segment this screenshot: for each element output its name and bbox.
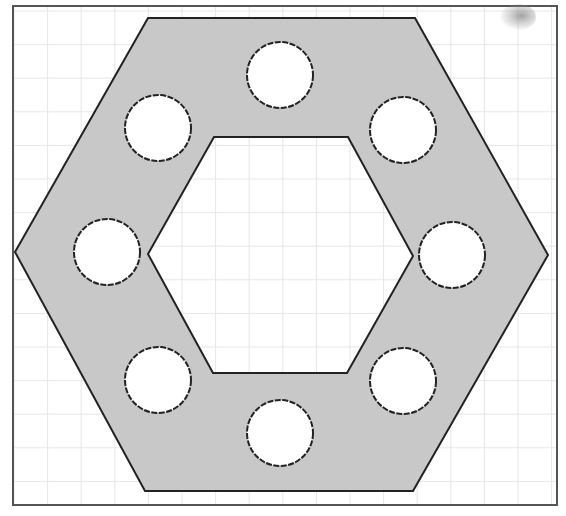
hexagon-plate-diagram [0, 0, 566, 516]
hole-upper-left [125, 95, 191, 161]
hole-lower-right [370, 348, 436, 414]
hole-upper-right [370, 97, 436, 163]
circular-holes [74, 42, 485, 466]
corner-watermark-smudge [500, 4, 536, 30]
hole-bottom [247, 400, 313, 466]
hole-top [247, 42, 313, 108]
hole-right [419, 222, 485, 288]
diagram-canvas [0, 0, 566, 516]
hole-lower-left [125, 347, 191, 413]
hole-left [74, 219, 140, 285]
